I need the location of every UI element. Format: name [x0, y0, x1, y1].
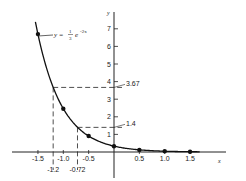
y-axis-label: y	[106, 10, 110, 16]
y-tick-label: 4	[107, 78, 111, 85]
y-tick-label: 6	[107, 43, 111, 50]
guide-leader-line	[114, 84, 125, 87]
x-tick-label: 1.5	[185, 155, 195, 162]
x-tick-label: 1.0	[160, 155, 170, 162]
exponential-decay-chart: -1.5-1.0-0.50.51.01.5 1234567 x y 3.67-1…	[0, 0, 246, 181]
equation-numerator: 1	[69, 29, 72, 34]
x-tick-label: -1.5	[32, 155, 44, 162]
x-axis-label: x	[217, 158, 221, 164]
guide-leader-line	[114, 124, 125, 127]
equation-leader-arrow	[38, 35, 53, 36]
equation-label: y = 1 3 e -2x	[38, 29, 87, 41]
data-point	[137, 148, 141, 152]
y-ticks: 1234567	[107, 25, 118, 138]
guide-x-label: -1.2	[47, 166, 59, 173]
data-point	[86, 134, 90, 138]
data-point	[61, 107, 65, 111]
exponential-curve	[35, 22, 199, 152]
axes	[12, 12, 226, 178]
equation-exponent: -2x	[80, 29, 87, 34]
guide-y-label: 3.67	[126, 80, 140, 87]
y-tick-label: 5	[107, 61, 111, 68]
guide-x-label: -0.72	[70, 166, 86, 173]
data-point	[112, 144, 116, 148]
y-tick-label: 3	[107, 96, 111, 103]
x-tick-label: 0.5	[134, 155, 144, 162]
equation-denominator: 3	[69, 36, 72, 41]
equation-prefix: y =	[53, 31, 64, 39]
data-point	[163, 149, 167, 153]
x-tick-label: -1.0	[57, 155, 69, 162]
x-tick-label: -0.5	[83, 155, 95, 162]
equation-base: e	[75, 31, 78, 39]
guide-y-label: 1.4	[126, 120, 136, 127]
data-point	[188, 150, 192, 154]
y-tick-label: 1	[107, 131, 111, 138]
y-tick-label: 2	[107, 113, 111, 120]
y-tick-label: 7	[107, 25, 111, 32]
